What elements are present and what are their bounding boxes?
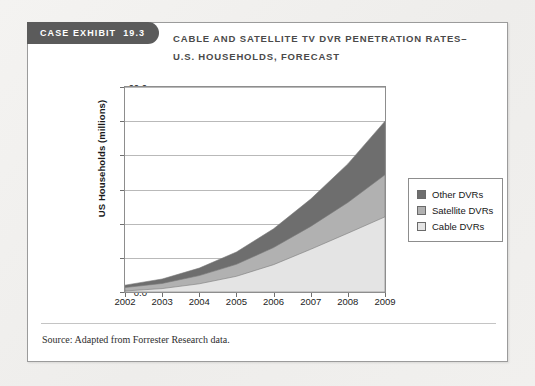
x-tick-mark [348,293,349,297]
case-exhibit-number: 19.3 [123,28,145,38]
legend-item[interactable]: Other DVRs [417,186,493,202]
case-exhibit-label: CASE EXHIBIT [40,28,116,38]
x-tick-mark [199,293,200,297]
legend-item[interactable]: Cable DVRs [417,218,493,234]
x-tick-mark [311,293,312,297]
footer-divider [41,323,496,324]
source-note: Source: Adapted from Forrester Research … [42,334,230,345]
chart-legend: Other DVRsSatellite DVRsCable DVRs [408,178,503,242]
legend-item[interactable]: Satellite DVRs [417,202,493,218]
x-tick-label: 2002 [105,296,145,307]
x-tick-label: 2003 [142,296,182,307]
x-tick-label: 2008 [328,296,368,307]
chart: US Households (millions) 0.010.020.030.0… [50,81,490,321]
x-tick-mark [274,293,275,297]
x-tick-label: 2009 [365,296,405,307]
x-tick-mark [162,293,163,297]
x-tick-label: 2007 [291,296,331,307]
legend-swatch-icon [417,206,426,215]
x-tick-mark [125,293,126,297]
x-tick-label: 2005 [216,296,256,307]
stacked-area-series [125,87,385,292]
exhibit-card: CASE EXHIBIT 19.3 CABLE AND SATELLITE TV… [27,22,508,362]
legend-label: Cable DVRs [432,221,484,232]
legend-label: Satellite DVRs [432,205,493,216]
x-tick-mark [236,293,237,297]
exhibit-title-line-2: U.S. HOUSEHOLDS, FORECAST [173,48,493,66]
page-background: CASE EXHIBIT 19.3 CABLE AND SATELLITE TV… [0,0,535,386]
plot-area [124,86,386,293]
legend-label: Other DVRs [432,189,483,200]
legend-swatch-icon [417,222,426,231]
exhibit-title-line-1: CABLE AND SATELLITE TV DVR PENETRATION R… [173,30,493,48]
exhibit-title: CABLE AND SATELLITE TV DVR PENETRATION R… [173,30,493,66]
case-exhibit-tab: CASE EXHIBIT 19.3 [27,22,159,44]
x-tick-mark [385,293,386,297]
x-tick-label: 2004 [179,296,219,307]
legend-swatch-icon [417,190,426,199]
x-tick-label: 2006 [254,296,294,307]
